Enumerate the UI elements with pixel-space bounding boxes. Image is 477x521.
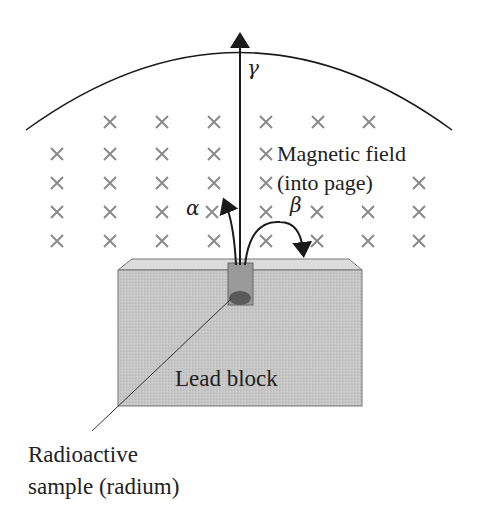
cross-icon xyxy=(156,148,168,160)
sample-label-line2: sample (radium) xyxy=(28,474,179,499)
cross-icon xyxy=(208,177,220,189)
cross-icon xyxy=(51,206,63,218)
cross-icon xyxy=(206,206,218,218)
cross-icon xyxy=(208,235,220,247)
radiation-deflection-diagram: γ α β Magnetic field (into page) Lead bl… xyxy=(0,0,477,521)
cross-icon xyxy=(413,235,425,247)
cross-icon xyxy=(362,206,374,218)
cross-icon xyxy=(104,148,116,160)
alpha-ray-path xyxy=(226,205,236,265)
cross-icon xyxy=(311,206,323,218)
cross-icon xyxy=(413,177,425,189)
cross-icon xyxy=(156,116,168,128)
cross-icon xyxy=(260,116,272,128)
alpha-label: α xyxy=(186,196,200,220)
cross-icon xyxy=(260,177,272,189)
lead-block-label: Lead block xyxy=(175,366,278,391)
cross-icon xyxy=(51,148,63,160)
cross-icon xyxy=(51,235,63,247)
cross-icon xyxy=(156,177,168,189)
cross-icon xyxy=(104,235,116,247)
cross-icon xyxy=(156,235,168,247)
sample-label-line1: Radioactive xyxy=(28,442,138,467)
beta-label: β xyxy=(289,193,302,217)
radium-sample xyxy=(229,291,251,305)
cross-icon xyxy=(208,116,220,128)
cross-icon xyxy=(363,116,375,128)
gamma-label: γ xyxy=(247,56,259,80)
cross-icon xyxy=(104,177,116,189)
cross-icon xyxy=(208,148,220,160)
cross-icon xyxy=(413,206,425,218)
cross-icon xyxy=(362,235,374,247)
cross-icon xyxy=(104,116,116,128)
cross-icon xyxy=(51,177,63,189)
cross-icon xyxy=(311,235,323,247)
cross-icon xyxy=(260,148,272,160)
cross-icon xyxy=(260,206,272,218)
magnetic-field-label: Magnetic field xyxy=(277,141,406,166)
cross-icon xyxy=(104,206,116,218)
cross-icon xyxy=(312,116,324,128)
cross-icon xyxy=(260,235,272,247)
into-page-label: (into page) xyxy=(277,170,373,195)
cross-icon xyxy=(156,206,168,218)
